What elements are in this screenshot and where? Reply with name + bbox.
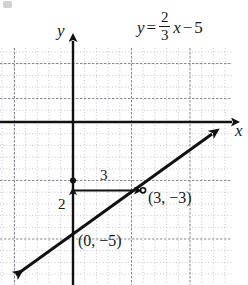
coordinate-plane-figure <box>0 0 248 285</box>
grid-major <box>0 48 232 285</box>
equation-minus: − <box>183 19 193 36</box>
equation-equals: = <box>147 19 157 36</box>
fraction-denominator: 3 <box>160 28 170 43</box>
rise-label: 2 <box>58 197 66 212</box>
y-axis-label: y <box>57 22 65 39</box>
equation-fraction: 2 3 <box>159 10 170 43</box>
equation-lhs: y <box>137 19 145 36</box>
point-label-y-intercept: (0, −5) <box>78 233 122 249</box>
point-0-minus5 <box>70 178 76 184</box>
point-3-minus3 <box>140 188 145 193</box>
equation-constant: 5 <box>194 19 203 36</box>
point-label-second-point: (3, −3) <box>148 190 192 206</box>
fraction-numerator: 2 <box>160 10 170 25</box>
grid-minor <box>0 48 232 285</box>
x-axis-label: x <box>235 122 243 139</box>
equation-variable: x <box>173 19 181 36</box>
equation-label: y = 2 3 x − 5 <box>137 11 203 44</box>
run-label: 3 <box>100 168 108 183</box>
